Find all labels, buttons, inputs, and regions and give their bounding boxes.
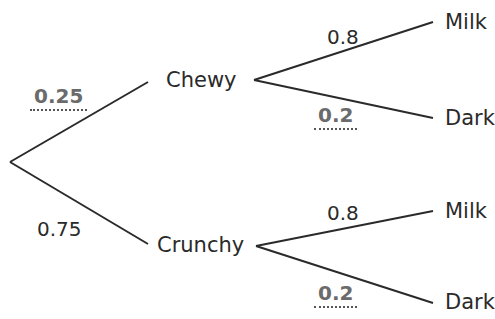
node-crunchy: Crunchy bbox=[157, 235, 244, 256]
prob-crunchy-dark: 0.2 bbox=[314, 283, 357, 308]
tree-branches bbox=[0, 0, 495, 319]
prob-chewy-milk: 0.8 bbox=[327, 27, 359, 47]
leaf-chewy-milk: Milk bbox=[445, 12, 487, 33]
leaf-crunchy-dark: Dark bbox=[445, 292, 495, 313]
prob-chewy-dark: 0.2 bbox=[314, 105, 357, 130]
node-chewy: Chewy bbox=[166, 70, 237, 91]
prob-crunchy: 0.75 bbox=[37, 219, 82, 239]
leaf-crunchy-milk: Milk bbox=[445, 201, 487, 222]
prob-crunchy-milk: 0.8 bbox=[327, 203, 359, 223]
prob-chewy: 0.25 bbox=[30, 86, 87, 111]
leaf-chewy-dark: Dark bbox=[445, 108, 495, 129]
